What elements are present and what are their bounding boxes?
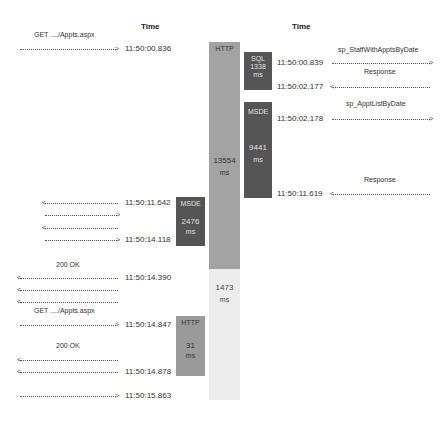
request-arrow-right: > [20, 392, 116, 400]
http-main-value: 13554 [209, 156, 240, 165]
http-main-tail-unit: ms [209, 296, 240, 303]
response-arrow-left: < [20, 356, 118, 364]
arrowhead-right-icon: > [116, 210, 120, 220]
msde-right-unit: ms [244, 156, 272, 163]
arrowhead-left-icon: < [17, 355, 21, 365]
arrowhead-left-icon: < [42, 198, 46, 208]
arrowhead-right-icon: > [116, 235, 120, 245]
query-arrow-right: > [332, 59, 430, 67]
http-small-value: 31 [176, 341, 205, 350]
sql-unit: ms [244, 71, 272, 78]
arrowhead-left-icon: < [17, 285, 21, 295]
sql-value: 1338 [244, 63, 272, 70]
http-small-unit: ms [176, 352, 205, 359]
left-event-time: 11:50:14.878 [125, 367, 171, 376]
left-event-label: GET ..../Appts.aspx [34, 31, 95, 38]
msde-left-unit: ms [176, 228, 205, 235]
left-event-time: 11:50:11.642 [125, 198, 171, 207]
query-response-arrow-left: < [333, 83, 430, 91]
right-event-label: sp_ApptListByDate [346, 100, 406, 107]
request-arrow-right: > [20, 321, 116, 329]
right-event-time: 11:50:11.619 [277, 189, 323, 198]
request-arrow-right: > [45, 236, 117, 244]
msde-right-box: MSDE 9441 ms [244, 102, 272, 198]
right-event-time: 11:50:02.177 [277, 82, 323, 91]
arrowhead-right-icon: > [429, 58, 433, 68]
left-event-label: 200 OK [56, 261, 80, 268]
right-event-label: sp_StaffWithApptsByDate [338, 46, 418, 53]
msde-right-value: 9441 [244, 143, 272, 152]
left-event-time: 11:50:15.863 [125, 391, 171, 400]
arrowhead-right-icon: > [115, 320, 119, 330]
http-main-tail-value: 1473 [209, 283, 240, 292]
right-event-label: Response [364, 176, 396, 183]
msde-left-value: 2476 [176, 217, 205, 226]
http-main-bar: HTTP 13554 ms [209, 42, 240, 269]
request-arrow-right: > [45, 211, 117, 219]
arrowhead-right-icon: > [115, 44, 119, 54]
right-time-header: Time [292, 22, 311, 31]
right-event-label: Response [364, 68, 396, 75]
arrowhead-left-icon: < [330, 82, 334, 92]
left-event-time: 11:50:00.836 [125, 44, 171, 53]
arrowhead-left-icon: < [17, 367, 21, 377]
right-event-time: 11:50:02.178 [277, 114, 323, 123]
msde-left-label: MSDE [176, 200, 205, 207]
msde-left-box: MSDE 2476 ms [176, 197, 205, 246]
left-time-header: Time [141, 22, 160, 31]
left-event-label: 200 OK [56, 342, 80, 349]
response-arrow-left: < [20, 274, 118, 282]
query-arrow-right: > [332, 115, 430, 123]
sql-box: SQL 1338 ms [244, 52, 272, 90]
left-event-time: 11:50:14.118 [125, 235, 171, 244]
sql-label: SQL [244, 55, 272, 62]
response-arrow-left: < [20, 286, 118, 294]
right-event-time: 11:50:00.839 [277, 58, 323, 67]
msde-right-label: MSDE [244, 108, 272, 115]
http-main-unit: ms [209, 169, 240, 176]
arrowhead-left-icon: < [330, 189, 334, 199]
arrowhead-left-icon: < [42, 223, 46, 233]
http-small-label: HTTP [176, 319, 205, 326]
arrowhead-right-icon: > [115, 391, 119, 401]
http-small-box: HTTP 31 ms [176, 316, 205, 376]
http-main-label: HTTP [209, 45, 240, 52]
response-arrow-left: < [20, 368, 118, 376]
arrowhead-left-icon: < [17, 273, 21, 283]
query-response-arrow-left: < [333, 190, 430, 198]
http-main-tail-bar: 1473 ms [209, 269, 240, 400]
response-arrow-left: < [45, 224, 118, 232]
request-arrow-right: > [20, 45, 116, 53]
response-arrow-left: < [20, 298, 118, 306]
arrowhead-right-icon: > [429, 114, 433, 124]
response-arrow-left: < [45, 199, 118, 207]
left-event-time: 11:50:14.390 [125, 273, 171, 282]
left-event-label: GET ..../Appts.aspx [34, 307, 95, 314]
left-event-time: 11:50:14.847 [125, 320, 171, 329]
arrowhead-left-icon: < [17, 297, 21, 307]
